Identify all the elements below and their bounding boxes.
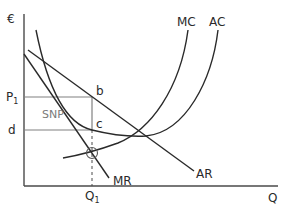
y-axis-label: € <box>7 12 15 26</box>
mc-label: MC <box>177 15 196 29</box>
ar-label: AR <box>196 167 213 181</box>
p1-label: P1 <box>6 90 18 106</box>
snp-label: SNP <box>42 108 64 121</box>
mr-curve <box>24 54 109 178</box>
q1-label: Q1 <box>85 189 100 205</box>
economics-diagram: € Q P1 d Q1 b c SNP MC AC AR MR <box>0 0 284 207</box>
point-b-label: b <box>96 84 104 98</box>
d-label: d <box>8 123 16 137</box>
mr-label: MR <box>113 174 132 188</box>
x-axis-label: Q <box>268 191 277 205</box>
point-c-label: c <box>96 117 103 131</box>
ac-label: AC <box>209 15 225 29</box>
